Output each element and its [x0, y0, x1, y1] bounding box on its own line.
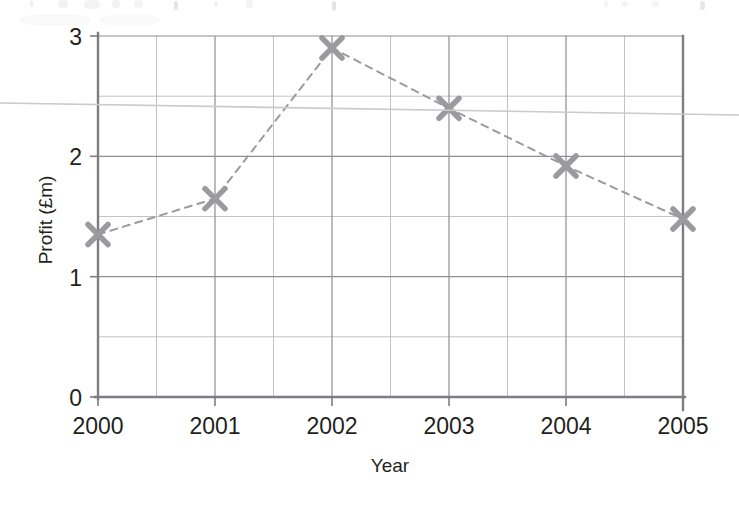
y-tick-labels: 3 2 1 0: [69, 24, 82, 411]
y-axis-title: Profit (£m): [35, 176, 56, 265]
x-tick-label-2004: 2004: [540, 413, 591, 439]
x-tick-label-2001: 2001: [189, 413, 240, 439]
profit-line-chart: 3 2 1 0 2000 2001 2002 2003 2004 2005: [0, 0, 739, 513]
x-tick-label-2002: 2002: [306, 413, 357, 439]
chart-page: 3 2 1 0 2000 2001 2002 2003 2004 2005: [0, 0, 739, 513]
y-tick-label-3: 3: [69, 24, 82, 50]
x-tick-label-2005: 2005: [657, 413, 708, 439]
minor-gridlines: [98, 36, 683, 397]
scan-ruled-line-artifact: [0, 103, 739, 115]
y-tick-label-1: 1: [69, 265, 82, 291]
x-tick-labels: 2000 2001 2002 2003 2004 2005: [72, 413, 708, 439]
y-tick-label-2: 2: [69, 144, 82, 170]
x-tick-label-2003: 2003: [423, 413, 474, 439]
x-axis-ticks: [98, 397, 683, 406]
x-axis-title: Year: [371, 455, 410, 476]
x-tick-label-2000: 2000: [72, 413, 123, 439]
y-tick-label-0: 0: [69, 385, 82, 411]
